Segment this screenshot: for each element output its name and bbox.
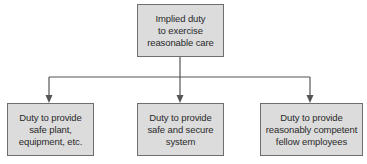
arrow-down-icon [307, 95, 314, 103]
child-node-system: Duty to provide safe and secure system [137, 103, 224, 156]
root-node-label: Implied duty to exercise reasonable care [147, 13, 214, 49]
root-node: Implied duty to exercise reasonable care [137, 4, 224, 57]
arrow-down-icon [46, 95, 53, 103]
child-node-label: Duty to provide reasonably competent fel… [266, 112, 357, 148]
child-node-plant: Duty to provide safe plant, equipment, e… [7, 103, 94, 156]
arrow-down-icon [177, 95, 184, 103]
child-node-label: Duty to provide safe and secure system [147, 112, 213, 148]
child-node-label: Duty to provide safe plant, equipment, e… [19, 112, 82, 148]
child-node-employees: Duty to provide reasonably competent fel… [260, 103, 363, 156]
